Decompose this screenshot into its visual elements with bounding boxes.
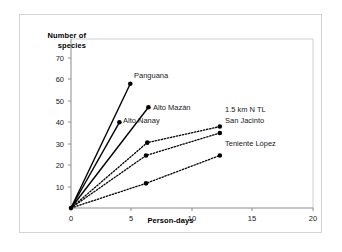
series-label-alto-nanay: Alto Nanay xyxy=(123,116,160,125)
series-line xyxy=(71,84,130,208)
data-point-marker xyxy=(218,124,223,129)
x-tick-label-10: 10 xyxy=(181,214,203,223)
series-1-5-km-n-tl xyxy=(71,124,222,208)
series-label-san-jacinto: San Jacinto xyxy=(225,116,264,125)
y-tick-label-30: 30 xyxy=(42,140,64,149)
series-panguana xyxy=(71,81,133,208)
data-point-marker xyxy=(128,81,133,86)
data-point-marker xyxy=(218,153,223,158)
series-label-1-5-km-n-tl: 1.5 km N TL xyxy=(225,105,266,114)
series-label-alto-mazan: Alto Mazán xyxy=(153,103,191,112)
y-axis-title: Number ofspecies xyxy=(24,31,86,51)
plot-area: Number ofspecies Person-days 10 20 30 40… xyxy=(20,15,321,232)
y-tick-label-10: 10 xyxy=(42,183,64,192)
data-point-marker xyxy=(218,131,223,136)
data-point-marker xyxy=(144,153,149,158)
y-tick-label-20: 20 xyxy=(42,161,64,170)
y-axis-title-line2: species xyxy=(58,41,86,50)
y-tick-label-60: 60 xyxy=(42,75,64,84)
chart-card: Number ofspecies Person-days 10 20 30 40… xyxy=(19,14,322,233)
x-tick-label-20: 20 xyxy=(302,214,324,223)
data-point-marker xyxy=(117,120,122,125)
x-tick-label-5: 5 xyxy=(120,214,142,223)
data-point-marker xyxy=(144,181,149,186)
x-tick-label-0: 0 xyxy=(60,214,82,223)
series-label-teniente-lopez: Teniente López xyxy=(225,139,276,148)
x-tick-label-15: 15 xyxy=(241,214,263,223)
data-point-marker-origin xyxy=(69,206,74,211)
y-tick-label-40: 40 xyxy=(42,118,64,127)
series-layer xyxy=(69,81,222,210)
y-tick-label-70: 70 xyxy=(42,54,64,63)
y-tick-label-50: 50 xyxy=(42,97,64,106)
data-point-marker xyxy=(145,140,150,145)
series-alto-nanay xyxy=(71,120,122,208)
data-point-marker xyxy=(146,105,151,110)
y-axis-title-line1: Number of xyxy=(48,31,86,40)
series-line xyxy=(71,122,119,208)
series-label-panguana: Panguana xyxy=(134,71,168,80)
